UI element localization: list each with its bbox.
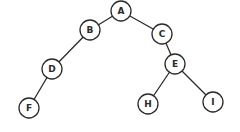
tree-node-b: B <box>80 20 100 40</box>
tree-node-i: I <box>203 92 223 112</box>
node-label: B <box>87 25 94 35</box>
tree-node-f: F <box>19 98 39 118</box>
node-label: C <box>159 29 166 39</box>
tree-node-e: E <box>165 54 185 74</box>
binary-tree-diagram: ABCDEFHI <box>0 0 240 132</box>
node-label: I <box>211 97 214 107</box>
tree-node-h: H <box>138 94 158 114</box>
node-label: E <box>172 59 178 69</box>
node-label: H <box>144 99 152 109</box>
tree-nodes: ABCDEFHI <box>19 1 223 118</box>
tree-node-a: A <box>111 1 131 21</box>
tree-node-c: C <box>152 24 172 44</box>
node-label: F <box>26 103 32 113</box>
node-label: A <box>118 6 125 16</box>
tree-node-d: D <box>42 59 62 79</box>
node-label: D <box>48 64 55 74</box>
